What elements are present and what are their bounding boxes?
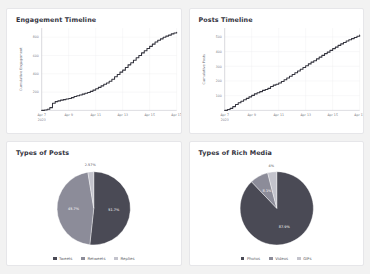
legend-swatch-icon: [297, 257, 301, 261]
posts-xticks: Apr 72023Apr 9Apr 11Apr 13Apr 15Apr 17: [220, 113, 363, 122]
engagement-line-chart: 200400600800 Apr 72023Apr 9Apr 11Apr 13A…: [7, 22, 181, 133]
posts-yticks: 100200300400500: [215, 35, 221, 98]
types-of-posts-pie-chart: 51.7%45.7%2.57%: [7, 155, 181, 266]
legend-label: Tweets: [59, 256, 72, 261]
engagement-y-axis-title: Cumulative Engagement: [19, 47, 23, 91]
dashboard-grid: Engagement Timeline 200400600800 Apr 720…: [0, 0, 370, 274]
legend-swatch-icon: [241, 257, 245, 261]
svg-text:51.7%: 51.7%: [108, 207, 120, 211]
legend-label: Replies: [121, 256, 135, 261]
svg-text:100: 100: [215, 94, 221, 98]
svg-text:600: 600: [33, 54, 39, 58]
legend-swatch-icon: [269, 257, 273, 261]
legend-item-photos[interactable]: Photos: [241, 256, 260, 261]
svg-text:400: 400: [33, 72, 39, 76]
engagement-gridlines: [42, 28, 177, 110]
card-types-of-rich-media: Types of Rich Media 87.9%8.1%4% PhotosVi…: [189, 141, 365, 267]
svg-text:Apr 13: Apr 13: [300, 113, 311, 117]
posts-gridlines: [224, 28, 359, 110]
svg-text:200: 200: [33, 90, 39, 94]
engagement-plot-area: 200400600800 Apr 72023Apr 9Apr 11Apr 13A…: [7, 22, 181, 133]
svg-text:Apr 15: Apr 15: [144, 113, 155, 117]
legend-swatch-icon: [114, 257, 118, 261]
svg-text:Apr 15: Apr 15: [327, 113, 338, 117]
svg-text:200: 200: [215, 79, 221, 83]
rich-media-legend: PhotosVideosGIFs: [190, 256, 364, 261]
rich-media-pie-chart: 87.9%8.1%4%: [190, 155, 364, 266]
posts-y-axis-title: Cumulative Posts: [202, 54, 206, 85]
types-of-posts-plot-area: 51.7%45.7%2.57%: [7, 155, 181, 266]
svg-text:300: 300: [215, 65, 221, 69]
svg-text:Apr 9: Apr 9: [64, 113, 73, 117]
engagement-yticks: 200400600800: [33, 35, 39, 94]
legend-item-gifs[interactable]: GIFs: [297, 256, 312, 261]
svg-text:Apr 7: Apr 7: [37, 113, 46, 117]
svg-text:4%: 4%: [268, 163, 274, 167]
svg-text:87.9%: 87.9%: [278, 225, 290, 229]
legend-label: Retweets: [87, 256, 105, 261]
svg-text:500: 500: [215, 35, 221, 39]
legend-label: GIFs: [303, 256, 311, 261]
legend-label: Photos: [247, 256, 260, 261]
posts-series-path: [224, 35, 359, 110]
svg-text:Apr 11: Apr 11: [90, 113, 101, 117]
legend-item-tweets[interactable]: Tweets: [53, 256, 72, 261]
engagement-series-path: [42, 32, 177, 110]
legend-label: Videos: [275, 256, 288, 261]
svg-text:2023: 2023: [38, 118, 46, 122]
legend-item-retweets[interactable]: Retweets: [81, 256, 105, 261]
types-of-posts-legend: TweetsRetweetsReplies: [7, 256, 181, 261]
svg-text:Apr 13: Apr 13: [117, 113, 128, 117]
posts-line-chart: 100200300400500 Apr 72023Apr 9Apr 11Apr …: [190, 22, 364, 133]
card-posts-timeline: Posts Timeline 100200300400500 Apr 72023…: [189, 8, 365, 134]
card-engagement-timeline: Engagement Timeline 200400600800 Apr 720…: [6, 8, 182, 134]
svg-text:Apr 9: Apr 9: [247, 113, 256, 117]
legend-item-replies[interactable]: Replies: [114, 256, 134, 261]
svg-text:Apr 17: Apr 17: [171, 113, 180, 117]
svg-text:8.1%: 8.1%: [262, 188, 271, 192]
rich-media-plot-area: 87.9%8.1%4%: [190, 155, 364, 266]
svg-text:2.57%: 2.57%: [85, 163, 97, 167]
legend-swatch-icon: [53, 257, 57, 261]
svg-text:800: 800: [33, 35, 39, 39]
svg-text:400: 400: [215, 50, 221, 54]
svg-text:Apr 17: Apr 17: [354, 113, 363, 117]
engagement-xticks: Apr 72023Apr 9Apr 11Apr 13Apr 15Apr 17: [37, 113, 180, 122]
svg-text:Apr 7: Apr 7: [220, 113, 229, 117]
svg-text:Apr 11: Apr 11: [273, 113, 284, 117]
rich-media-slices: [240, 171, 313, 244]
legend-item-videos[interactable]: Videos: [269, 256, 288, 261]
posts-plot-area: 100200300400500 Apr 72023Apr 9Apr 11Apr …: [190, 22, 364, 133]
svg-text:45.7%: 45.7%: [68, 207, 80, 211]
card-types-of-posts: Types of Posts 51.7%45.7%2.57% TweetsRet…: [6, 141, 182, 267]
legend-swatch-icon: [81, 257, 85, 261]
svg-text:2023: 2023: [220, 118, 228, 122]
